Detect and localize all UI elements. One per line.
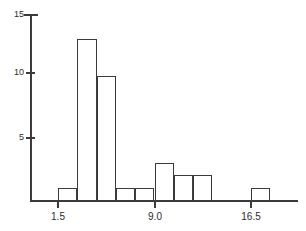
plot-area: 15 10 5 1.5 9.0 16.5 [0,0,306,231]
histogram-bar [193,175,212,200]
y-axis-tick-10 [26,72,35,74]
x-axis-tick-3 [250,200,252,208]
histogram-chart: 15 10 5 1.5 9.0 16.5 [0,0,306,231]
histogram-bar [116,188,135,200]
y-axis-line [30,14,32,202]
x-axis-tick-2 [154,200,156,208]
x-axis-line [30,200,298,202]
histogram-bar [251,188,270,200]
histogram-bar [77,39,96,200]
x-axis-tick-label-2: 9.0 [148,211,162,222]
histogram-bar [155,163,174,200]
y-axis-tick-label-10: 10 [14,68,24,77]
histogram-bar [58,188,77,200]
histogram-bar [97,76,116,200]
x-axis-tick-1 [57,200,59,208]
histogram-bar [174,175,193,200]
histogram-bar [135,188,154,200]
y-axis-tick-15 [24,14,38,16]
y-axis-tick-label-15: 15 [14,10,24,19]
x-axis-tick-label-3: 16.5 [241,211,260,222]
y-axis-tick-5 [26,137,35,139]
y-axis-tick-label-5: 5 [19,133,24,142]
x-axis-tick-label-1: 1.5 [51,211,65,222]
